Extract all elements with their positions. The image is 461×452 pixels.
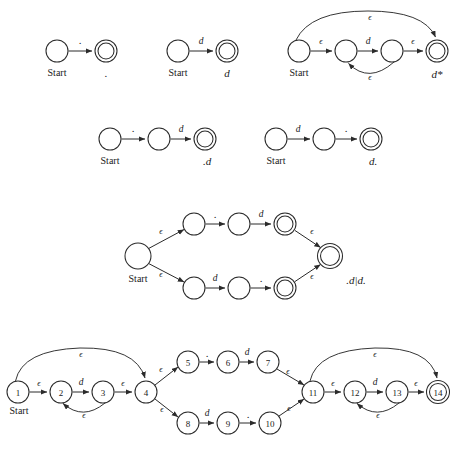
state-label-2: 2 xyxy=(59,388,64,398)
edge-start-a1 xyxy=(149,230,184,249)
start-label: Start xyxy=(129,273,148,284)
caption-nfa-dot-digit: .d xyxy=(203,155,212,167)
edge-label-epsilon: ϵ xyxy=(319,36,323,46)
edge-label-dot: . xyxy=(247,408,250,420)
diagram-nfa-digit-dot: d . Start d. xyxy=(265,122,382,167)
edge-label-dot: . xyxy=(206,347,209,359)
edge-label-epsilon: ϵ xyxy=(411,36,415,46)
edge-label-dot: . xyxy=(345,122,348,134)
edge-label-epsilon: ϵ xyxy=(287,403,291,413)
edge-b3-final xyxy=(295,265,321,282)
start-label: Start xyxy=(267,155,286,166)
edge-label-epsilon: ϵ xyxy=(121,378,125,388)
state-circle-q2[interactable] xyxy=(381,40,403,62)
edge-label-epsilon: ϵ xyxy=(82,410,86,420)
start-label: Start xyxy=(290,67,309,78)
diagram-nfa-dot-digit: . d Start .d xyxy=(99,122,216,167)
edge-label-d: d xyxy=(79,377,84,387)
state-circle-start[interactable] xyxy=(99,128,121,150)
state-circle-a1[interactable] xyxy=(183,213,205,235)
edge-label-epsilon: ϵ xyxy=(331,378,335,388)
state-label-10: 10 xyxy=(266,419,276,429)
state-label-4: 4 xyxy=(144,388,149,398)
caption-nfa-digit-dot: d. xyxy=(369,155,377,167)
state-label-12: 12 xyxy=(351,388,360,398)
edge-label-d: d xyxy=(259,209,264,219)
edge-label-epsilon: ϵ xyxy=(160,404,164,414)
state-circle-q1[interactable] xyxy=(313,128,335,150)
edge-label-epsilon: ϵ xyxy=(373,349,377,359)
state-circle-b2[interactable] xyxy=(228,277,250,299)
edge-4-8 xyxy=(155,399,178,417)
state-circle-start[interactable] xyxy=(265,128,287,150)
edge-10-11 xyxy=(279,399,304,416)
start-label: Start xyxy=(101,155,120,166)
state-label-1: 1 xyxy=(16,388,21,398)
edge-label-epsilon: ϵ xyxy=(159,269,163,279)
state-label-5: 5 xyxy=(186,358,191,368)
edge-label-epsilon: ϵ xyxy=(376,410,380,420)
edge-label-epsilon: ϵ xyxy=(37,378,41,388)
edge-label-dot: . xyxy=(79,34,82,46)
edge-label-d: d xyxy=(199,36,204,46)
start-label: Start xyxy=(48,67,67,78)
start-label: Start xyxy=(169,67,188,78)
figure-root: . Start . d Start d ϵ d ϵ ϵ ϵ Start d* xyxy=(0,0,461,452)
diagram-nfa-digit: d Start d xyxy=(167,36,238,79)
state-label-14: 14 xyxy=(434,388,444,398)
edge-label-dot: . xyxy=(132,122,135,134)
state-label-3: 3 xyxy=(101,388,106,398)
state-circle-b1[interactable] xyxy=(183,277,205,299)
state-circle-q1[interactable] xyxy=(148,128,170,150)
start-label: Start xyxy=(10,405,29,416)
edge-label-epsilon: ϵ xyxy=(286,366,290,376)
caption-nfa-union: .d|d. xyxy=(346,274,366,286)
state-label-8: 8 xyxy=(186,419,191,429)
state-circle-start[interactable] xyxy=(288,40,310,62)
edge-label-d: d xyxy=(245,347,250,357)
edge-label-dot: . xyxy=(260,272,263,284)
edge-label-dot: . xyxy=(214,208,217,220)
edge-label-d: d xyxy=(213,273,218,283)
edge-label-d: d xyxy=(205,408,210,418)
edge-label-epsilon: ϵ xyxy=(79,349,83,359)
edge-a3-final xyxy=(295,231,321,248)
edge-label-epsilon: ϵ xyxy=(414,378,418,388)
caption-nfa-dot: . xyxy=(105,67,108,79)
edge-label-d: d xyxy=(179,124,184,134)
state-circle-q1[interactable] xyxy=(335,40,357,62)
diagram-nfa-numbered: 1 Start 2 3 4 5 6 7 8 9 10 11 12 13 14 xyxy=(7,347,450,434)
state-circle-a2[interactable] xyxy=(228,213,250,235)
state-circle-final[interactable] xyxy=(318,244,343,269)
edge-label-epsilon: ϵ xyxy=(368,12,372,22)
edge-label-d: d xyxy=(296,124,301,134)
nfa-figure-svg: . Start . d Start d ϵ d ϵ ϵ ϵ Start d* xyxy=(0,0,461,452)
edge-label-epsilon: ϵ xyxy=(159,226,163,236)
edge-label-epsilon: ϵ xyxy=(310,226,314,236)
state-label-11: 11 xyxy=(309,388,318,398)
state-circle-start[interactable] xyxy=(167,40,189,62)
edge-label-epsilon: ϵ xyxy=(368,72,372,82)
edge-label-d: d xyxy=(366,36,371,46)
state-label-13: 13 xyxy=(393,388,403,398)
edge-label-d: d xyxy=(373,377,378,387)
diagram-nfa-dot: . Start . xyxy=(46,34,117,79)
edge-label-epsilon: ϵ xyxy=(310,271,314,281)
edge-start-b1 xyxy=(149,264,184,283)
state-label-9: 9 xyxy=(226,419,231,429)
edge-label-epsilon: ϵ xyxy=(159,364,163,374)
caption-nfa-digit-star: d* xyxy=(432,68,444,80)
state-label-6: 6 xyxy=(226,358,231,368)
diagram-nfa-union: Start ϵ ϵ . d ϵ d . xyxy=(125,208,366,299)
caption-nfa-digit: d xyxy=(224,67,230,79)
state-circle-start[interactable] xyxy=(46,40,68,62)
edge-7-11 xyxy=(277,369,304,385)
state-circle-start[interactable] xyxy=(125,243,151,269)
state-label-7: 7 xyxy=(266,358,271,368)
diagram-nfa-digit-star: ϵ d ϵ ϵ ϵ Start d* xyxy=(288,11,448,82)
